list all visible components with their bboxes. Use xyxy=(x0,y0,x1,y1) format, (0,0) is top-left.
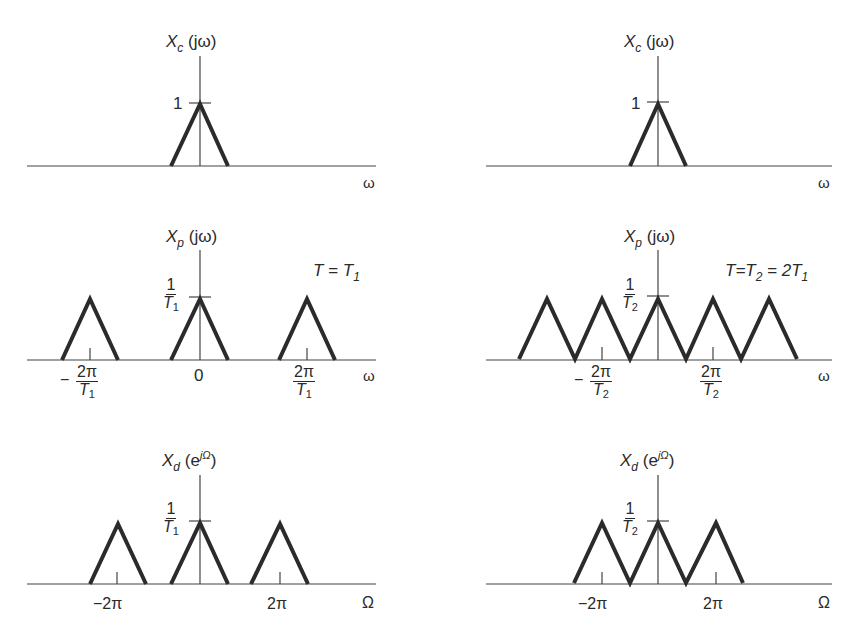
x-axis-label: ω xyxy=(818,175,830,190)
fraction-denominator: T2 xyxy=(622,295,638,312)
title-base: X xyxy=(166,32,177,51)
title-close: ) xyxy=(669,451,675,470)
fraction-denominator: T1 xyxy=(163,519,179,536)
title-sub: d xyxy=(631,460,638,474)
title-arg: (jω) xyxy=(188,32,216,51)
tick-label-neg: 2π T2 xyxy=(590,364,612,399)
annotation-text: T = T xyxy=(313,261,353,280)
fraction-numerator: 2π xyxy=(700,364,722,382)
fraction-numerator: 1 xyxy=(166,501,177,519)
panel-right-top-title: Xc (jω) xyxy=(624,33,674,50)
fraction-denominator: T1 xyxy=(296,382,312,399)
panel-right-bottom-plot xyxy=(486,475,832,584)
fraction-denominator: T2 xyxy=(593,382,609,399)
tick-label-pos: 2π T2 xyxy=(700,364,722,399)
title-sub: c xyxy=(177,41,183,55)
title-sub: p xyxy=(635,236,642,250)
panel-left-top-plot xyxy=(27,56,376,166)
panel-left-bottom-title: Xd (ejΩ) xyxy=(162,452,216,469)
tick-label-pos: 2π xyxy=(267,596,287,612)
panel-left-bottom-plot xyxy=(27,475,376,584)
spectrum-triangle xyxy=(90,524,146,584)
tick-label-neg: 2π T1 xyxy=(76,364,98,399)
title-arg: (jω) xyxy=(189,227,217,246)
annotation-rest: = 2T xyxy=(762,261,801,280)
peak-label: 1 xyxy=(631,95,640,112)
fraction-numerator: 1 xyxy=(625,501,636,519)
title-arg: (e xyxy=(643,451,658,470)
fraction-numerator: 2π xyxy=(293,364,315,382)
panel-right-top-plot xyxy=(486,56,832,166)
fraction-denominator: T2 xyxy=(703,382,719,399)
tick-label-pos: 2π T1 xyxy=(293,364,315,399)
peak-label-fraction: 1 T2 xyxy=(622,277,638,312)
title-arg: (jω) xyxy=(646,32,674,51)
annotation-sub: 1 xyxy=(353,270,360,284)
x-axis-label: Ω xyxy=(362,595,374,611)
title-close: ) xyxy=(211,451,217,470)
fraction-numerator: 2π xyxy=(590,364,612,382)
title-sub: d xyxy=(173,460,180,474)
title-sub: p xyxy=(177,236,184,250)
tick-label-pos: 2π xyxy=(703,596,723,612)
fraction-denominator: T2 xyxy=(622,519,638,536)
peak-label-fraction: 1 T1 xyxy=(163,501,179,536)
title-base: X xyxy=(620,451,631,470)
x-axis-label: ω xyxy=(363,368,375,383)
x-axis-label: ω xyxy=(818,368,830,383)
panel-left-top-title: Xc (jω) xyxy=(166,33,216,50)
peak-label-fraction: 1 T1 xyxy=(163,277,179,312)
peak-label-fraction: 1 T2 xyxy=(622,501,638,536)
annotation-text: T=T xyxy=(725,261,756,280)
fraction-numerator: 2π xyxy=(76,364,98,382)
panel-right-middle-title: Xp (jω) xyxy=(624,228,675,245)
title-sub: c xyxy=(635,41,641,55)
panel-right-bottom-title: Xd (ejΩ) xyxy=(620,452,674,469)
title-base: X xyxy=(162,451,173,470)
x-axis-label: Ω xyxy=(818,595,830,611)
peak-label: 1 xyxy=(173,95,182,112)
tick-sign: − xyxy=(574,371,583,389)
tick-label-neg: −2π xyxy=(578,596,607,612)
annotation-sub2: 1 xyxy=(802,270,809,284)
title-arg: (e xyxy=(185,451,200,470)
x-axis-label: ω xyxy=(363,175,375,190)
title-base: X xyxy=(624,227,635,246)
title-base: X xyxy=(166,227,177,246)
fraction-denominator: T1 xyxy=(163,295,179,312)
fraction-denominator: T1 xyxy=(79,382,95,399)
tick-label-neg: −2π xyxy=(93,596,122,612)
sampling-period-annotation: T = T1 xyxy=(313,262,360,279)
fraction-numerator: 1 xyxy=(625,277,636,295)
panel-left-middle-title: Xp (jω) xyxy=(166,228,217,245)
figure-canvas xyxy=(0,0,858,642)
title-base: X xyxy=(624,32,635,51)
tick-label-zero: 0 xyxy=(194,367,203,384)
fraction-numerator: 1 xyxy=(166,277,177,295)
tick-sign: − xyxy=(60,371,69,389)
title-superscript: jΩ xyxy=(658,449,669,461)
title-superscript: jΩ xyxy=(200,449,211,461)
sampling-period-annotation: T=T2 = 2T1 xyxy=(725,262,808,279)
annotation-sub: 2 xyxy=(756,270,763,284)
title-arg: (jω) xyxy=(647,227,675,246)
